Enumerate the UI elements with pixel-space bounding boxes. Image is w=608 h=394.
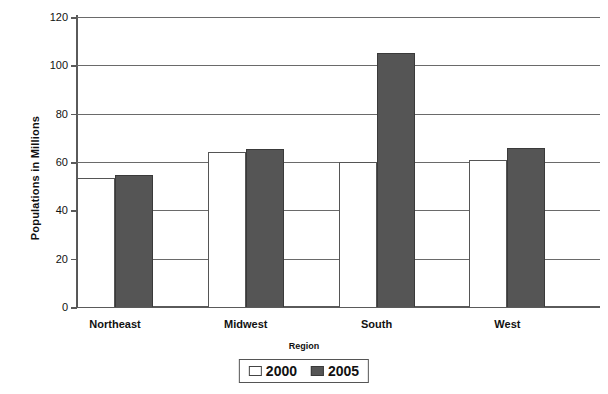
x-axis-title: Region <box>0 341 608 351</box>
bar-chart: Populations in Millions 020406080100120 … <box>0 0 608 394</box>
y-axis-tick-label: 100 <box>50 59 68 71</box>
bar-northeast-2000 <box>77 178 115 307</box>
legend-label-2005: 2005 <box>328 363 359 379</box>
legend-swatch-2005 <box>311 366 324 376</box>
y-axis-tick-label: 0 <box>62 301 68 313</box>
bar-west-2005 <box>507 148 545 308</box>
bar-midwest-2005 <box>246 149 284 307</box>
y-axis-tick <box>71 17 77 19</box>
gridline <box>77 65 600 66</box>
bar-west-2000 <box>469 160 507 307</box>
x-axis-label-midwest: Midwest <box>224 318 267 330</box>
y-axis-title: Populations in Millions <box>29 63 41 293</box>
bar-midwest-2000 <box>208 152 246 307</box>
legend-label-2000: 2000 <box>266 363 297 379</box>
x-axis-label-northeast: Northeast <box>89 318 140 330</box>
plot-area: 020406080100120 <box>77 17 600 307</box>
x-axis-label-south: South <box>361 318 392 330</box>
y-axis-tick-label: 20 <box>56 253 68 265</box>
legend-swatch-2000 <box>249 366 262 376</box>
bar-northeast-2005 <box>115 175 153 307</box>
y-axis-tick-label: 60 <box>56 156 68 168</box>
y-axis-tick <box>71 307 77 309</box>
gridline <box>77 114 600 115</box>
legend-item-2000[interactable]: 2000 <box>249 363 297 379</box>
y-axis-tick <box>71 162 77 164</box>
bar-south-2000 <box>339 162 377 307</box>
legend-item-2005[interactable]: 2005 <box>311 363 359 379</box>
y-axis-tick-label: 80 <box>56 108 68 120</box>
x-axis-label-west: West <box>494 318 520 330</box>
gridline <box>77 17 600 18</box>
y-axis-tick-label: 40 <box>56 204 68 216</box>
bar-south-2005 <box>377 53 415 307</box>
y-axis-tick <box>71 114 77 116</box>
y-axis-tick-label: 120 <box>50 11 68 23</box>
y-axis-tick <box>71 65 77 67</box>
chart-legend: 20002005 <box>239 359 369 383</box>
